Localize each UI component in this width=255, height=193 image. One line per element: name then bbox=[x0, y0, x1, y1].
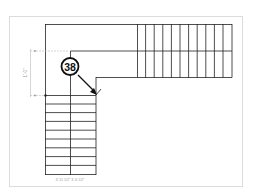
dimension-line bbox=[30, 49, 68, 97]
stair-outline bbox=[45, 24, 232, 175]
landing-node bbox=[44, 94, 46, 96]
dim-tick-top bbox=[34, 50, 36, 52]
stair-plan-drawing: 1'-0" 38 3'-11 1/2" 3'-6 1/2" bbox=[0, 0, 255, 193]
dimension-label: 1'-0" bbox=[23, 68, 28, 77]
dim-tick-bottom bbox=[34, 95, 36, 97]
drawing-frame bbox=[10, 17, 243, 187]
callout-38: 38 bbox=[62, 58, 102, 95]
bottom-dimension-labels: 3'-11 1/2" 3'-6 1/2" bbox=[55, 178, 85, 182]
callout-number: 38 bbox=[64, 61, 76, 73]
